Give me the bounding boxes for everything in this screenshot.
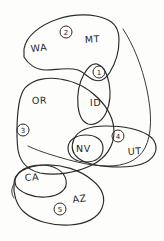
state-label-mt: MT	[85, 33, 101, 45]
state-label-az: AZ	[72, 192, 88, 205]
region-diagram: 1 2 3 4 5 WA MT OR ID NV UT CA AZ	[0, 0, 164, 241]
sketch-canvas: 1 2 3 4 5 WA MT OR ID NV UT CA AZ	[0, 0, 164, 241]
badge-3-label: 3	[21, 127, 25, 135]
badge-4-label: 4	[116, 133, 121, 141]
badge-5-label: 5	[58, 206, 62, 214]
state-label-or: OR	[32, 94, 48, 106]
ca-inner-outline[interactable]	[15, 165, 66, 197]
state-label-ca: CA	[24, 171, 39, 183]
state-label-nv: NV	[76, 143, 91, 154]
region-badge-2[interactable]: 2	[60, 26, 72, 38]
region-badge-3[interactable]: 3	[17, 124, 29, 136]
badge-1-label: 1	[97, 69, 101, 77]
state-label-id: ID	[90, 97, 102, 108]
badge-2-label: 2	[64, 29, 68, 37]
state-label-wa: WA	[30, 41, 48, 54]
region-badge-5[interactable]: 5	[54, 203, 66, 215]
region-badge-1[interactable]: 1	[93, 66, 105, 78]
state-label-ut: UT	[127, 145, 142, 157]
